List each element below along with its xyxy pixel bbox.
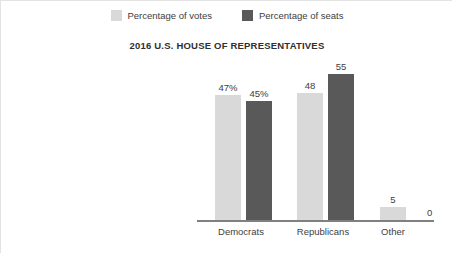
bar-value-label: 55 xyxy=(328,62,354,72)
bar[interactable] xyxy=(297,93,323,220)
bar[interactable] xyxy=(246,101,272,220)
bars-layer: 47%45%485550 xyxy=(197,61,434,220)
bar[interactable] xyxy=(328,74,354,220)
bar-slot: 55 xyxy=(328,61,354,220)
category-axis-labels: DemocratsRepublicansOther xyxy=(197,227,434,241)
legend-label-votes: Percentage of votes xyxy=(128,11,213,21)
chart-canvas: Percentage of votes Percentage of seats … xyxy=(0,0,452,253)
legend-item-votes: Percentage of votes xyxy=(111,10,213,21)
bar-group: 47%45% xyxy=(215,61,272,220)
bar-value-label: 47% xyxy=(215,83,241,93)
plot-area: 47%45%485550 xyxy=(197,61,434,222)
bar-value-label: 45% xyxy=(246,89,272,99)
bar-slot: 5 xyxy=(380,61,406,220)
chart-title: 2016 U.S. HOUSE OF REPRESENTATIVES xyxy=(1,40,452,51)
legend-swatch-votes xyxy=(111,10,122,21)
legend-swatch-seats xyxy=(242,10,253,21)
category-label: Other xyxy=(353,227,433,237)
bar-slot: 48 xyxy=(297,61,323,220)
legend-label-seats: Percentage of seats xyxy=(259,11,344,21)
bar-slot: 0 xyxy=(411,61,437,220)
bar-group: 4855 xyxy=(297,61,354,220)
bar-slot: 45% xyxy=(246,61,272,220)
bar-slot: 47% xyxy=(215,61,241,220)
bar-value-label: 48 xyxy=(297,81,323,91)
x-axis-line xyxy=(197,220,434,222)
bar-group: 50 xyxy=(380,61,437,220)
legend-item-seats: Percentage of seats xyxy=(242,10,344,21)
bar-value-label: 0 xyxy=(427,208,452,218)
chart-legend: Percentage of votes Percentage of seats xyxy=(1,10,452,21)
bar-value-label: 5 xyxy=(380,195,406,205)
bar[interactable] xyxy=(380,207,406,220)
category-label: Democrats xyxy=(201,227,281,237)
bar[interactable] xyxy=(215,95,241,220)
category-label: Republicans xyxy=(283,227,363,237)
